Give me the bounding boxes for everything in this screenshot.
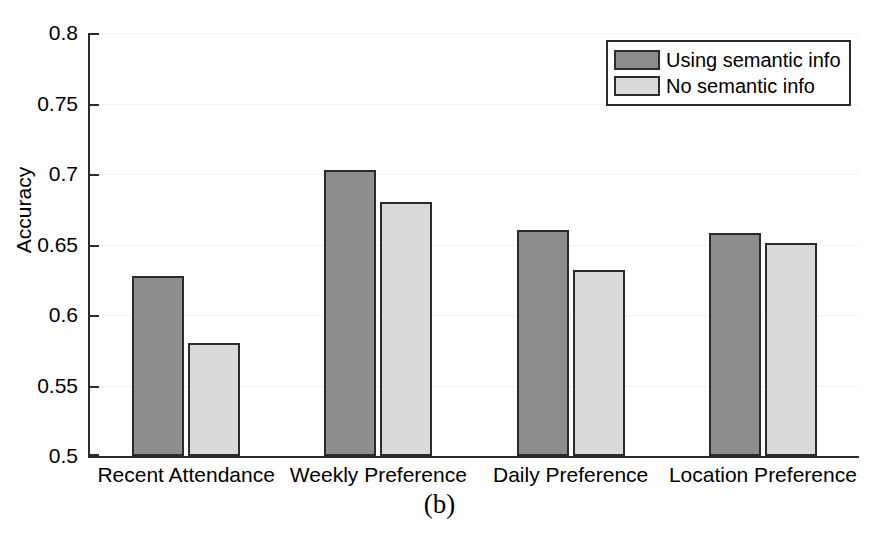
y-axis-tick [90,33,99,35]
y-axis-tick [90,315,99,317]
y-axis-tick [90,174,99,176]
bar-no-semantic-info [573,270,625,456]
y-axis-label: Accuracy [12,150,36,270]
y-axis-tick-label: 0.65 [37,233,78,257]
y-axis-tick-label: 0.8 [49,21,78,45]
bar-using-semantic-info [324,170,376,456]
figure-caption: (b) [0,489,879,520]
chart-legend: Using semantic infoNo semantic info [606,40,851,106]
legend-swatch-icon [614,50,660,70]
x-axis-category-label: Weekly Preference [290,463,467,487]
bar-no-semantic-info [380,202,432,456]
bar-using-semantic-info [132,276,184,456]
gridline [90,33,859,34]
bar-using-semantic-info [709,233,761,456]
gridline [90,174,859,175]
y-axis-tick-label: 0.75 [37,92,78,116]
y-axis-tick [90,454,99,456]
x-axis-category-label: Daily Preference [493,463,648,487]
y-axis-tick [90,386,99,388]
legend-item: No semantic info [614,73,841,99]
legend-item: Using semantic info [614,47,841,73]
y-axis-tick-label: 0.55 [37,374,78,398]
y-axis-tick-label: 0.7 [49,162,78,186]
legend-label: No semantic info [666,76,815,96]
bar-no-semantic-info [188,343,240,456]
y-axis-tick-label: 0.5 [49,444,78,468]
y-axis-tick [90,245,99,247]
y-axis-tick [90,104,99,106]
bar-using-semantic-info [517,230,569,456]
legend-label: Using semantic info [666,50,841,70]
legend-swatch-icon [614,76,660,96]
y-axis-tick-label: 0.6 [49,303,78,327]
figure-bar-chart-accuracy: Accuracy 0.50.550.60.650.70.750.8Recent … [0,0,879,544]
x-axis-category-label: Location Preference [669,463,857,487]
bar-no-semantic-info [765,243,817,456]
x-axis-category-label: Recent Attendance [97,463,274,487]
